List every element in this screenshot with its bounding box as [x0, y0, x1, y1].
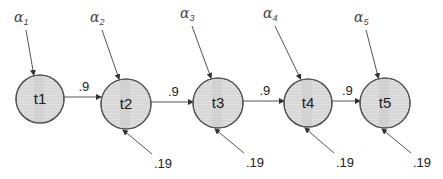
transition-prob-label: .9: [79, 79, 90, 94]
state-label: t3: [212, 94, 225, 111]
self-prob-arrow: [305, 128, 334, 153]
initial-prob-label: α1: [14, 9, 28, 27]
state-label: t2: [120, 95, 133, 112]
self-prob-arrow: [123, 130, 152, 154]
state-node-t3: t3: [193, 78, 243, 128]
initial-prob-arrow: [275, 26, 301, 79]
state-label: t4: [302, 94, 315, 111]
state-node-t4: t4: [284, 79, 332, 127]
state-node-t5: t5: [360, 78, 410, 128]
self-prob-arrow: [382, 129, 411, 153]
initial-prob-arrow: [102, 30, 119, 79]
state-label: t1: [34, 90, 47, 107]
self-prob-label: .19: [413, 155, 431, 170]
initial-prob-label: α2: [90, 9, 104, 27]
self-prob-label: .19: [336, 155, 354, 170]
initial-prob-arrow: [192, 26, 211, 78]
initial-prob-arrow: [366, 30, 378, 78]
initial-prob-arrow: [26, 30, 34, 75]
initial-prob-label: α5: [354, 9, 369, 27]
self-prob-label: .19: [246, 155, 264, 170]
diagram-canvas: .9.9.9.9 α1t1α2.19t2α3.19t3α4.19t4α5.19t…: [0, 0, 443, 179]
self-prob-arrow: [215, 129, 244, 153]
self-prob-label: .19: [154, 156, 172, 171]
state-label: t5: [379, 94, 392, 111]
state-node-t2: t2: [101, 79, 151, 129]
initial-prob-label: α4: [263, 5, 277, 23]
initial-prob-label: α3: [180, 5, 194, 23]
transition-prob-label: .9: [260, 83, 271, 98]
nodes-layer: α1t1α2.19t2α3.19t3α4.19t4α5.19t5: [14, 5, 431, 171]
transition-prob-label: .9: [342, 83, 353, 98]
transition-prob-label: .9: [168, 84, 179, 99]
state-node-t1: t1: [16, 75, 64, 123]
